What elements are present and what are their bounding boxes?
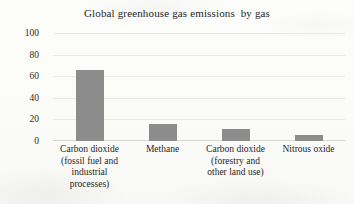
x-axis-category-label-line: industrial: [53, 167, 126, 179]
y-axis-tick-label: 80: [13, 50, 39, 60]
y-axis-tick-label: 40: [13, 93, 39, 103]
bars-layer: [53, 33, 345, 141]
x-axis-category-label: Carbon dioxide(fossil fuel andindustrial…: [53, 144, 126, 190]
y-axis-tick-label: 100: [13, 28, 39, 38]
x-axis-category-label-line: (forestry and: [199, 156, 272, 168]
bar-slot: [199, 33, 272, 141]
bar-slot: [53, 33, 126, 141]
y-axis-tick-label: 60: [13, 71, 39, 81]
x-axis-category-label: Nitrous oxide: [272, 144, 345, 156]
plot-area: 020406080100: [53, 33, 345, 141]
bar-chart: Global greenhouse gas emissions by gas P…: [0, 0, 354, 204]
bar[interactable]: [222, 129, 250, 141]
x-axis-category-label-line: (fossil fuel and: [53, 156, 126, 168]
bar-slot: [126, 33, 199, 141]
bar-slot: [272, 33, 345, 141]
x-axis-category-label: Carbon dioxide(forestry andother land us…: [199, 144, 272, 179]
x-axis-category-label-line: other land use): [199, 167, 272, 179]
x-axis-category-label-line: Nitrous oxide: [272, 144, 345, 156]
x-axis-category-label: Methane: [126, 144, 199, 156]
bar[interactable]: [295, 135, 323, 141]
x-axis-category-label-line: processes): [53, 179, 126, 191]
x-axis-category-label-line: Carbon dioxide: [53, 144, 126, 156]
x-axis-category-labels: Carbon dioxide(fossil fuel andindustrial…: [53, 144, 345, 202]
y-axis-tick-label: 0: [13, 136, 39, 146]
x-axis-category-label-line: Carbon dioxide: [199, 144, 272, 156]
y-axis-tick-label: 20: [13, 114, 39, 124]
bar[interactable]: [76, 70, 104, 141]
bar[interactable]: [149, 124, 177, 141]
chart-title: Global greenhouse gas emissions by gas: [0, 7, 354, 19]
x-axis-category-label-line: Methane: [126, 144, 199, 156]
